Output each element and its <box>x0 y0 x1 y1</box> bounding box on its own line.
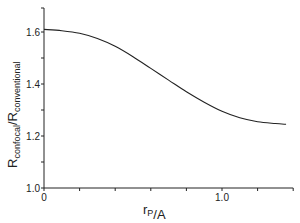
y-tick-label: 1.2 <box>26 131 40 142</box>
y-tick-label: 1.6 <box>26 27 40 38</box>
x-tick-label: 1.0 <box>215 192 229 203</box>
x-axis: 01.0 <box>41 188 293 203</box>
y-tick-label: 1.0 <box>26 183 40 194</box>
y-axis: 1.01.21.41.6 <box>26 8 44 194</box>
x-tick-label: 0 <box>41 192 47 203</box>
y-tick-label: 1.4 <box>26 79 40 90</box>
y-axis-label: Rconfocal/Rconventional <box>5 62 22 168</box>
chart: 1.01.21.41.6 01.0 Rconfocal/Rconventiona… <box>0 0 300 223</box>
x-axis-label: rP/A <box>143 202 166 222</box>
data-curve <box>44 29 286 124</box>
